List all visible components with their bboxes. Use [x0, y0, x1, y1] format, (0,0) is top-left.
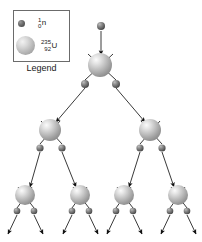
neutron-trajectory-arrow: [8, 215, 17, 234]
uranium-nucleus: [39, 119, 61, 141]
uranium-nucleus: [114, 185, 134, 205]
neutron-trajectory-arrow: [116, 88, 145, 122]
neutron-trajectory-arrow: [133, 215, 142, 234]
uranium-nuclei-layer: [15, 53, 188, 205]
neutron-indices: 1 0: [38, 17, 41, 30]
neutron-trajectory-arrow: [34, 215, 43, 234]
legend-label-uranium: 235 92 U: [41, 39, 57, 52]
neutron-particle: [167, 208, 174, 215]
neutron-trajectory-arrow: [56, 88, 85, 122]
neutron-particle: [14, 208, 21, 215]
neutron-particle: [130, 208, 137, 215]
neutron-trajectory-arrow: [187, 215, 196, 234]
legend-box: 1 0 n 235 92 U: [13, 10, 70, 62]
neutron-particle: [97, 22, 105, 30]
legend-caption: Legend: [13, 63, 70, 73]
neutron-particle: [31, 208, 38, 215]
neutron-trajectory-arrow: [63, 215, 72, 234]
legend-item-uranium: 235 92 U: [16, 36, 57, 55]
neutron-trajectory-arrow: [162, 152, 174, 187]
uranium-symbol: U: [52, 42, 58, 50]
neutron-particle: [158, 144, 165, 151]
neutron-trajectory-arrow: [107, 215, 116, 234]
neutron-particle: [86, 208, 93, 215]
uranium-nucleus: [70, 185, 90, 205]
uranium-atomic-number: 92: [44, 46, 51, 52]
neutron-trajectory-arrow: [62, 152, 76, 187]
neutron-sphere-icon: [18, 20, 25, 27]
neutron-particle: [69, 208, 76, 215]
neutron-trajectory-arrow: [30, 152, 40, 187]
uranium-sphere-icon: [16, 36, 35, 55]
neutron-particle: [136, 144, 143, 151]
neutron-trajectory-arrow: [129, 152, 140, 187]
neutron-trajectory-arrow: [89, 215, 98, 234]
uranium-nucleus: [15, 185, 35, 205]
neutron-particle: [112, 80, 120, 88]
neutron-trajectory-arrow: [161, 215, 170, 234]
neutron-particle: [81, 80, 89, 88]
uranium-indices: 235 92: [41, 39, 51, 52]
neutron-atomic-number: 0: [38, 23, 41, 29]
neutron-symbol: n: [42, 19, 46, 27]
uranium-nucleus: [139, 119, 161, 141]
neutron-particle: [113, 208, 120, 215]
uranium-nucleus: [88, 53, 112, 77]
legend-item-neutron: 1 0 n: [18, 17, 46, 30]
legend-label-neutron: 1 0 n: [38, 17, 46, 30]
neutron-particle: [58, 144, 65, 151]
fission-chain-reaction-figure: 1 0 n 235 92 U Legend: [0, 0, 202, 242]
uranium-nucleus: [168, 185, 188, 205]
neutron-particle: [36, 144, 43, 151]
neutron-particle: [184, 208, 191, 215]
